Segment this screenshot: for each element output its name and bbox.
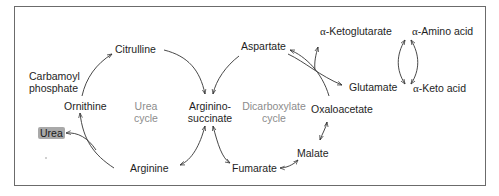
node-citrulline: Citrulline <box>115 43 156 56</box>
arrow-amino-to-keto-left <box>398 40 405 84</box>
node-glutamate: Glutamate <box>349 81 397 94</box>
arrow-citrulline-to-argininosuccinate <box>164 50 205 94</box>
arrow-malate-oxaloacetate <box>320 122 327 140</box>
node-oxaloacetate: Oxaloacetate <box>311 103 373 116</box>
arrow-aspartate-to-argininosuccinate <box>213 56 239 94</box>
node-ornithine: Ornithine <box>64 100 107 113</box>
node-arginine: Arginine <box>130 162 169 175</box>
arrow-ornithine-to-citrulline <box>82 54 112 96</box>
alpha-keto-acid-name: -Keto acid <box>419 82 466 94</box>
scan-artifact <box>45 157 47 159</box>
arrow-oxaloacetate-to-aspartate <box>290 50 329 96</box>
node-carbamoyl-phosphate-line2: phosphate <box>29 82 78 95</box>
node-alpha-keto-acid: α-Keto acid <box>413 82 466 95</box>
node-argininosuccinate-line2: succinate <box>186 112 234 125</box>
node-urea: Urea <box>38 127 65 140</box>
node-aspartate: Aspartate <box>241 40 286 53</box>
alpha-ketoglutarate-name: -Ketoglutarate <box>326 25 392 37</box>
cycle-label-dicarboxylate-line2: cycle <box>237 112 311 125</box>
node-alpha-amino-acid: α-Amino acid <box>412 25 473 38</box>
node-malate: Malate <box>297 147 329 160</box>
arrow-fumarate-malate <box>280 160 298 168</box>
urea-badge: Urea <box>38 127 65 139</box>
cycle-label-urea-line2: cycle <box>131 112 161 125</box>
arrow-amino-to-keto-right <box>411 40 418 84</box>
arrow-arginine-to-ornithine <box>80 113 114 168</box>
arrow-argininosuccinate-fumarate <box>213 126 230 163</box>
node-fumarate: Fumarate <box>232 162 277 175</box>
alpha-amino-acid-name: -Amino acid <box>418 25 473 37</box>
arrow-argininosuccinate-arginine <box>180 126 205 165</box>
node-alpha-ketoglutarate: α-Ketoglutarate <box>320 25 392 38</box>
arrow-to-alpha-ketoglutarate <box>315 47 318 70</box>
